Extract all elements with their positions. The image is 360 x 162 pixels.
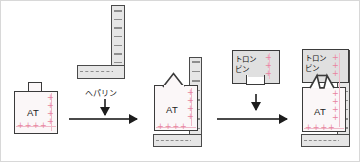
at-label-2: AT xyxy=(166,104,178,115)
at-label-3: AT xyxy=(314,106,326,117)
at-thrombin-interlock xyxy=(309,74,335,89)
heparin-vertical-dashes xyxy=(114,10,122,72)
heparin-corner-fill xyxy=(113,67,124,78)
thrombin-bound-label-line-2: ビン xyxy=(305,64,319,73)
heparin-corner-fill-2 xyxy=(191,136,201,146)
heparin-corner-fill-3 xyxy=(339,136,349,146)
diagram-canvas: ++++ + + + + ++++ AT ヘパリン xyxy=(0,0,360,162)
at-charge-axis-h-1 xyxy=(16,126,56,127)
complex-charge-axis xyxy=(339,53,340,127)
thrombin-label-line-1: トロン xyxy=(235,55,256,64)
reaction-arrow-2 xyxy=(217,114,287,124)
at-charge-axis-h-2 xyxy=(156,127,196,128)
heparin-label: ヘパリン xyxy=(85,87,117,98)
thrombin-notch-seam xyxy=(248,74,264,77)
thrombin-bound-label-line-1: トロン xyxy=(305,54,326,63)
at-label-1: AT xyxy=(27,107,39,118)
thrombin-active-site-notch xyxy=(246,75,265,85)
at-charge-axis-v-2 xyxy=(191,88,192,126)
thrombin-label-line-2: ビン xyxy=(235,65,249,74)
complex-charge-axis-h xyxy=(304,128,344,129)
at-peak-seam-2 xyxy=(164,85,184,88)
heparin-addition-arrow xyxy=(100,99,111,115)
thrombin-addition-arrow xyxy=(251,94,262,110)
thrombin-charge-axis xyxy=(269,53,270,79)
reaction-arrow-1 xyxy=(69,114,137,124)
